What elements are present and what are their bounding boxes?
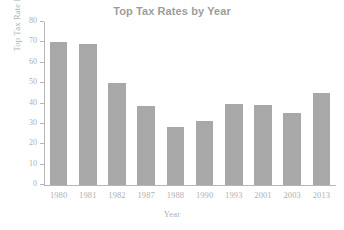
bar <box>108 83 126 185</box>
y-axis-line <box>44 22 45 186</box>
y-tick: 40 <box>40 103 44 104</box>
y-tick: 0 <box>40 184 44 185</box>
bar <box>137 106 155 185</box>
y-tick-label: 40 <box>29 98 37 107</box>
x-tick-label: 1988 <box>161 190 190 200</box>
bar-chart: Top Tax Rates by Year Top Tax Rate Perce… <box>0 0 344 230</box>
y-tick: 60 <box>40 62 44 63</box>
y-tick: 30 <box>40 123 44 124</box>
chart-title: Top Tax Rates by Year <box>0 5 344 17</box>
x-tick-label: 1993 <box>219 190 248 200</box>
y-tick: 70 <box>40 41 44 42</box>
bar <box>196 121 214 185</box>
x-axis-line <box>44 185 336 186</box>
y-tick-label: 10 <box>29 159 37 168</box>
x-axis-label: Year <box>0 209 344 219</box>
y-tick-label: 60 <box>29 57 37 66</box>
y-tick-label: 20 <box>29 138 37 147</box>
x-tick-label: 1990 <box>190 190 219 200</box>
y-tick-label: 50 <box>29 77 37 86</box>
y-tick: 10 <box>40 164 44 165</box>
x-tick-label: 2001 <box>248 190 277 200</box>
bar <box>79 44 97 185</box>
y-tick: 20 <box>40 143 44 144</box>
y-tick: 50 <box>40 82 44 83</box>
bar <box>167 127 185 185</box>
x-tick-label: 1981 <box>73 190 102 200</box>
bar <box>283 113 301 185</box>
bar <box>254 105 272 185</box>
y-tick-label: 0 <box>33 179 37 188</box>
x-tick-label: 2003 <box>278 190 307 200</box>
bar <box>50 42 68 185</box>
y-tick-label: 80 <box>29 16 37 25</box>
bar <box>225 104 243 185</box>
y-axis-label: Top Tax Rate Percent <box>12 0 22 68</box>
x-tick-label: 1980 <box>44 190 73 200</box>
y-tick-label: 30 <box>29 118 37 127</box>
x-tick-label: 1987 <box>132 190 161 200</box>
x-tick-label: 1982 <box>102 190 131 200</box>
x-tick-label: 2013 <box>307 190 336 200</box>
plot-area: 01020304050607080 1980198119821987198819… <box>44 22 336 186</box>
bar <box>313 93 331 185</box>
y-tick: 80 <box>40 21 44 22</box>
y-tick-label: 70 <box>29 36 37 45</box>
